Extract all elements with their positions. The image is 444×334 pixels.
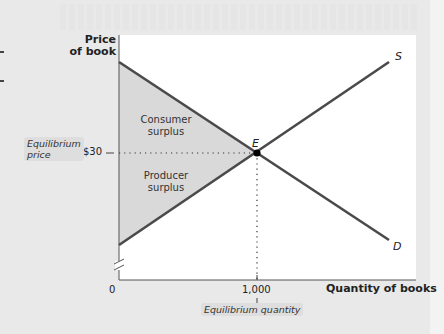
consumer-surplus-label: Consumer surplus	[137, 114, 195, 138]
equilibrium-point-label: E	[252, 137, 259, 150]
y-axis-title-line2: of book	[60, 46, 116, 58]
equilibrium-price-callout: Equilibrium price	[24, 137, 84, 161]
equilibrium-price-line1: Equilibrium	[27, 138, 81, 149]
quantity-tick-label: 1,000	[242, 284, 271, 295]
price-tick-label: $30	[83, 146, 102, 157]
origin-label: 0	[109, 284, 115, 295]
equilibrium-quantity-callout: Equilibrium quantity	[201, 303, 303, 316]
consumer-surplus-line1: Consumer	[137, 114, 195, 126]
producer-surplus-label: Producer surplus	[137, 170, 195, 194]
producer-surplus-line2: surplus	[137, 182, 195, 194]
y-axis-title-2: of book	[60, 46, 116, 58]
consumer-surplus-line2: surplus	[137, 126, 195, 138]
equilibrium-price-line2: price	[27, 149, 81, 160]
supply-curve-label: S	[395, 50, 402, 63]
producer-surplus-line1: Producer	[137, 170, 195, 182]
x-axis-title: Quantity of books	[326, 283, 437, 295]
demand-curve-label: D	[393, 240, 401, 253]
equilibrium-point	[253, 149, 260, 156]
